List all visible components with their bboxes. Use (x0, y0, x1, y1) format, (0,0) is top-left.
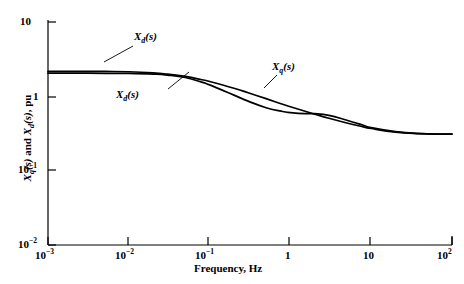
x-tick-label-1e-1: 10−1 (195, 250, 214, 261)
x-tick-label-1e-3: 10−3 (35, 250, 54, 261)
x-axis-ticks (48, 237, 452, 245)
x-tick-label-1e2: 102 (437, 250, 452, 261)
y-tick-label-1: 1 (33, 91, 39, 102)
y-axis-ticks (48, 22, 56, 245)
leader-xd-top (104, 46, 133, 62)
curve-xd (48, 73, 452, 134)
x-tick-label-10: 10 (363, 250, 374, 261)
plot-area (0, 0, 464, 284)
x-tick-label-1: 1 (285, 250, 291, 261)
leader-xq (264, 75, 277, 88)
x-tick-label-1e-2: 10−2 (115, 250, 134, 261)
x-axis-title: Frequency, Hz (194, 262, 262, 274)
curve-label-xq: Xq(s) (272, 60, 295, 72)
y-axis-title: Xq(s) and Xd(s), pu (21, 55, 33, 221)
chart-figure: 10 1 10−1 10−2 10−3 10−2 10−1 1 10 102 F… (0, 0, 464, 284)
y-tick-label-10: 10 (20, 16, 31, 27)
curve-label-xd-top: Xd(s) (134, 30, 157, 42)
curve-label-xd-lower: Xd(s) (116, 88, 139, 100)
annotation-leaders (104, 46, 277, 89)
